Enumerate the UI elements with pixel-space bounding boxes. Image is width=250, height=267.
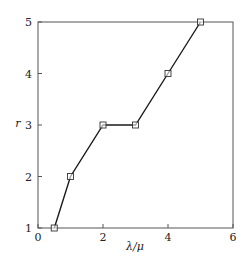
y-axis-ticks: 12345 [25,16,42,235]
data-point-marker [100,122,106,128]
data-point-marker [165,71,171,77]
data-point-marker [133,122,139,128]
x-tick-label: 6 [230,231,237,244]
y-tick-label: 2 [25,171,32,184]
data-point-marker [51,225,57,231]
series-line [54,22,200,228]
line-chart: 0246 12345 λ/μ r [0,0,250,267]
y-axis-label: r [15,117,21,130]
y-tick-label: 3 [25,119,32,132]
x-axis-label: λ/μ [125,240,144,253]
y-tick-label: 1 [25,222,32,235]
data-point-marker [198,19,204,25]
x-tick-label: 4 [165,231,172,244]
x-tick-label: 0 [35,231,42,244]
data-point-marker [68,174,74,180]
y-tick-label: 5 [25,16,32,29]
x-tick-label: 2 [100,231,107,244]
y-tick-label: 4 [25,68,32,81]
